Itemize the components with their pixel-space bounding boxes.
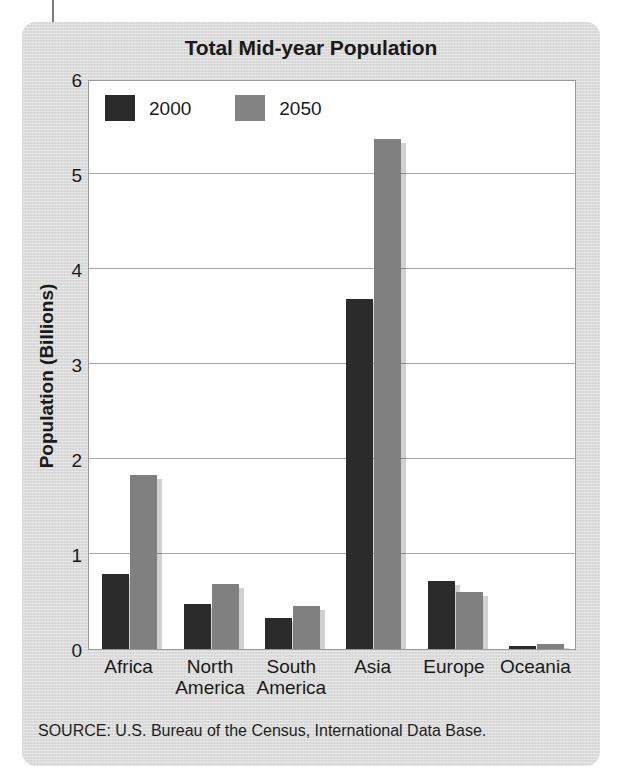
bars-layer: [89, 81, 575, 649]
x-tick-label-north-america: North America: [175, 656, 245, 699]
bar-north-america-2050: [212, 584, 239, 649]
bar-oceania-2000: [509, 646, 536, 649]
page-edge-rule: [52, 0, 54, 24]
legend-entry-2000: 2000: [105, 95, 191, 121]
bar-africa-2000: [102, 574, 129, 649]
bar-asia-2050: [374, 139, 401, 649]
x-tick-label-africa: Africa: [104, 656, 153, 677]
x-tick-label-oceania: Oceania: [500, 656, 571, 677]
y-axis-tick-labels: 0123456: [54, 80, 82, 650]
legend-label-2000: 2000: [149, 99, 191, 118]
plot-area: 20002050: [88, 80, 576, 650]
legend-swatch-2000: [105, 95, 135, 121]
bar-europe-2000: [428, 581, 455, 649]
y-tick-label: 5: [71, 166, 82, 185]
y-tick-label: 1: [71, 546, 82, 565]
legend-entry-2050: 2050: [235, 95, 321, 121]
x-axis-tick-labels: AfricaNorth AmericaSouth AmericaAsiaEuro…: [88, 656, 576, 712]
x-tick-label-europe: Europe: [423, 656, 484, 677]
bar-europe-2050: [456, 592, 483, 649]
bar-asia-2000: [346, 299, 373, 649]
bar-africa-2050: [130, 475, 157, 649]
y-tick-label: 6: [71, 71, 82, 90]
legend-label-2050: 2050: [279, 99, 321, 118]
bar-south-america-2050: [293, 606, 320, 649]
source-note: SOURCE: U.S. Bureau of the Census, Inter…: [38, 722, 486, 740]
y-tick-label: 0: [71, 641, 82, 660]
y-tick-label: 2: [71, 451, 82, 470]
chart-legend: 20002050: [105, 95, 322, 121]
y-tick-label: 4: [71, 261, 82, 280]
y-axis-title: Population (Billions): [36, 266, 58, 486]
bar-north-america-2000: [184, 604, 211, 649]
legend-swatch-2050: [235, 95, 265, 121]
y-tick-label: 3: [71, 356, 82, 375]
bar-south-america-2000: [265, 618, 292, 649]
x-tick-label-south-america: South America: [256, 656, 326, 699]
x-tick-label-asia: Asia: [354, 656, 391, 677]
page-title: Total Mid-year Population: [22, 36, 600, 60]
bar-oceania-2050: [537, 644, 564, 649]
